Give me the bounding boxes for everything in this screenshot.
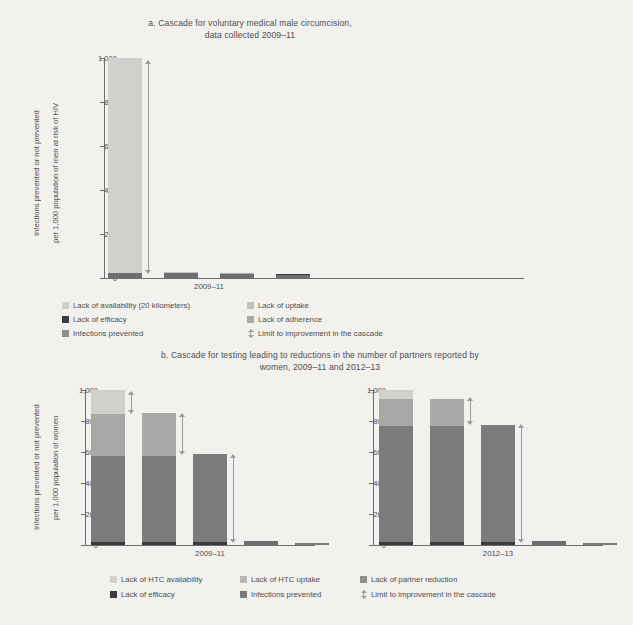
chart-b-right-limit-arrow-1 (466, 397, 474, 425)
swatch-icon-light (62, 302, 69, 309)
bar-a-uptake-seg-base (164, 273, 198, 278)
bar-b-right-lack-of-htc-uptake[interactable] (430, 399, 464, 546)
legend-a-label-infections-prevented: Infections prevented (73, 329, 143, 338)
legend-a-item-limit-to-improvement[interactable]: Limit to improvement in the cascade (247, 329, 383, 338)
chart-b-right-limit-arrow-2 (517, 424, 525, 543)
bar-b-right-lack-of-partner-reduction[interactable] (481, 425, 515, 545)
seg-lack-of-efficacy-2 (142, 542, 176, 545)
chart-b-left-limit-arrow-3 (229, 454, 237, 543)
swatch-icon-black (62, 316, 69, 323)
chart-b-y-axis-label-l2: per 1,000 population of women (51, 415, 60, 519)
legend-a-label-lack-of-efficacy: Lack of efficacy (73, 315, 127, 324)
legend-b-label-limit-to-improvement: Limit to improvement in the cascade (371, 590, 496, 599)
bar-a-lack-of-uptake[interactable] (164, 272, 198, 278)
legend-a-label-lack-of-adherence: Lack of adherence (258, 315, 322, 324)
legend-b-item-lack-of-partner-reduction[interactable]: Lack of partner reduction (360, 575, 457, 584)
seg-lack-of-htc-uptake-2 (142, 413, 176, 456)
seg-lack-of-partner-reduction-3 (193, 454, 227, 541)
seg-r-lack-of-efficacy (379, 542, 413, 545)
swatch-icon-gray-b (240, 591, 247, 598)
legend-a-item-infections-prevented[interactable]: Infections prevented (62, 329, 247, 338)
chart-b-legend-row-2: Lack of efficacy Infections prevented Li… (110, 590, 630, 599)
chart-a-panel: a. Cascade for voluntary medical male ci… (0, 0, 633, 345)
seg-r-lack-of-htc-uptake-2 (430, 399, 464, 426)
bar-b-right-lack-of-htc-availability[interactable] (379, 390, 413, 545)
swatch-icon-medium-b (240, 576, 247, 583)
bar-b-left-lack-of-htc-uptake[interactable] (142, 413, 176, 545)
bar-b-left-lack-of-partner-reduction[interactable] (193, 454, 227, 545)
legend-a-item-lack-of-adherence[interactable]: Lack of adherence (247, 315, 322, 324)
swatch-icon-black-b (110, 591, 117, 598)
chart-b-title: b. Cascade for testing leading to reduct… (30, 350, 610, 373)
chart-b-title-line2: women, 2009–11 and 2012–13 (30, 362, 610, 374)
bar-b-left-lack-of-efficacy[interactable] (244, 541, 278, 545)
chart-a-legend-row-1: Lack of availability (20 kilometers) Lac… (62, 301, 532, 310)
up-down-arrow-icon (247, 329, 254, 338)
chart-a-y-axis-label-l1: Infections prevented or not prevented (32, 110, 41, 236)
seg-lack-of-efficacy (91, 542, 125, 545)
legend-a-label-lack-of-availability: Lack of availability (20 kilometers) (73, 301, 190, 310)
swatch-icon-dark (62, 330, 69, 337)
chart-a-title-line1: a. Cascade for voluntary medical male ci… (0, 18, 500, 30)
chart-a-title: a. Cascade for voluntary medical male ci… (0, 18, 500, 41)
legend-a-item-lack-of-uptake[interactable]: Lack of uptake (247, 301, 309, 310)
chart-b-y-axis-label-l1: Infections prevented or not prevented (32, 405, 41, 531)
chart-b-panel: b. Cascade for testing leading to reduct… (0, 345, 633, 625)
bar-a-lack-of-adherence[interactable] (220, 273, 254, 279)
legend-b-label-lack-of-htc-availability: Lack of HTC availability (121, 575, 202, 584)
chart-a-legend: Lack of availability (20 kilometers) Lac… (62, 301, 532, 338)
legend-a-label-lack-of-uptake: Lack of uptake (258, 301, 309, 310)
legend-a-item-lack-of-availability[interactable]: Lack of availability (20 kilometers) (62, 301, 247, 310)
chart-b-left-limit-arrow-1 (127, 391, 135, 414)
chart-b-left-xtick-label: 2009–11 (195, 549, 225, 558)
chart-a-legend-row-2: Lack of efficacy Lack of adherence (62, 315, 532, 324)
seg-r-lack-of-partner-reduction-3 (481, 425, 515, 542)
seg-lack-of-htc-uptake (91, 414, 125, 456)
seg-r-lack-of-htc-availability (379, 390, 413, 399)
chart-b-right-y-axis-line (373, 390, 374, 546)
chart-b-right-plot-area: 1,000 800 600 400 200 0 2012–13 (373, 390, 603, 545)
chart-b-title-line1: b. Cascade for testing leading to reduct… (30, 350, 610, 362)
up-down-arrow-icon-b (360, 590, 367, 599)
seg-r-lack-of-htc-uptake (379, 399, 413, 426)
legend-b-label-lack-of-partner-reduction: Lack of partner reduction (371, 575, 457, 584)
bar-a-lack-of-efficacy[interactable] (276, 274, 310, 278)
chart-b-y-axis-label: Infections prevented or not prevented pe… (22, 385, 44, 550)
chart-b-right-xtick-label: 2012–13 (483, 549, 513, 558)
legend-b-item-infections-prevented[interactable]: Infections prevented (240, 590, 360, 599)
bar-b-right-infections-prevented[interactable] (583, 543, 617, 545)
bar-b-right-lack-of-efficacy[interactable] (532, 541, 566, 545)
seg-lack-of-htc-availability (91, 390, 125, 414)
bar-a-lack-of-availability[interactable] (108, 58, 142, 278)
chart-a-plot-area: 1,000 800 600 400 200 0 2009–11 (104, 58, 524, 278)
legend-a-label-limit-to-improvement: Limit to improvement in the cascade (258, 329, 383, 338)
legend-b-item-lack-of-efficacy[interactable]: Lack of efficacy (110, 590, 240, 599)
legend-b-item-lack-of-htc-availability[interactable]: Lack of HTC availability (110, 575, 240, 584)
chart-a-limit-arrow (144, 60, 152, 274)
seg-lack-of-partner-reduction-2 (142, 456, 176, 542)
chart-b-left-plot-area: 1,000 800 600 400 200 0 (85, 390, 315, 545)
chart-a-y-axis-label-l2: per 1,000 population of men at risk of H… (51, 103, 60, 243)
legend-b-item-limit-to-improvement[interactable]: Limit to improvement in the cascade (360, 590, 496, 599)
seg-r-lack-of-partner-reduction (379, 426, 413, 542)
chart-b-left-x-axis-line (85, 545, 315, 546)
chart-a-y-axis-label: Infections prevented or not prevented pe… (22, 58, 44, 288)
bar-b-left-infections-prevented[interactable] (295, 543, 329, 545)
chart-a-title-line2: data collected 2009–11 (0, 30, 500, 42)
chart-a-y-axis-line (104, 58, 105, 279)
legend-b-item-lack-of-htc-uptake[interactable]: Lack of HTC uptake (240, 575, 360, 584)
chart-a-limit-arrow-head-down (145, 270, 151, 274)
chart-a-x-axis-line (104, 278, 524, 279)
chart-a-legend-row-3: Infections prevented Limit to improvemen… (62, 329, 532, 338)
swatch-icon-light-2 (247, 302, 254, 309)
bar-a-seg-lack-of-availability (108, 58, 142, 273)
swatch-icon-light-b (110, 576, 117, 583)
legend-b-label-lack-of-htc-uptake: Lack of HTC uptake (251, 575, 320, 584)
chart-b-legend-row-1: Lack of HTC availability Lack of HTC upt… (110, 575, 630, 584)
bar-b-left-lack-of-htc-availability[interactable] (91, 390, 125, 545)
legend-a-item-lack-of-efficacy[interactable]: Lack of efficacy (62, 315, 247, 324)
chart-b-right-x-axis-line (373, 545, 603, 546)
swatch-icon-dark-b (360, 576, 367, 583)
chart-b-left-y-axis-line (85, 390, 86, 546)
bar-a-seg-infections-prevented (108, 273, 142, 278)
